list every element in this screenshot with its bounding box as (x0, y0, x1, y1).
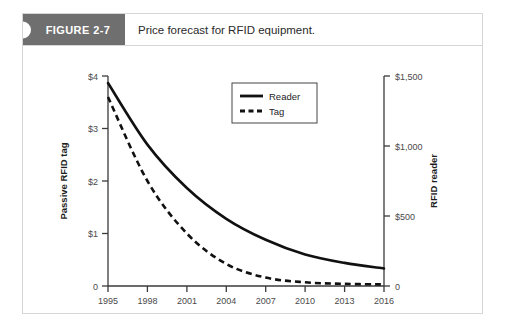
chart-legend: Reader Tag (232, 83, 317, 123)
x-tick-label-1998: 1998 (137, 296, 157, 306)
y-tick-label-3: $3 (88, 124, 98, 134)
y2-tick-label-500: $500 (395, 212, 415, 222)
y-tick-label-1: $1 (88, 229, 98, 239)
legend-box (232, 83, 317, 123)
x-tick-label-2004: 2004 (216, 296, 236, 306)
y2-tick-label-0: 0 (395, 282, 400, 292)
series-line-tag (108, 97, 384, 284)
y-tick-label-2: $2 (88, 177, 98, 187)
figure-number-tab: FIGURE 2-7 (23, 14, 125, 45)
x-tick-label-2013: 2013 (335, 296, 355, 306)
figure-card: FIGURE 2-7 Price forecast for RFID equip… (22, 13, 483, 314)
x-tick-label-2007: 2007 (256, 296, 276, 306)
x-tick-label-2001: 2001 (177, 296, 197, 306)
y-tick-label-0: 0 (93, 282, 98, 292)
tab-notch-decoration (23, 21, 31, 38)
figure-header: FIGURE 2-7 Price forecast for RFID equip… (23, 14, 482, 46)
y-axis-right-title: RFID reader (428, 154, 439, 208)
figure-number-label: FIGURE 2-7 (38, 24, 111, 36)
legend-label-tag: Tag (269, 106, 284, 117)
x-tick-label-2016: 2016 (374, 296, 394, 306)
y2-tick-label-1000: $1,000 (395, 142, 423, 152)
figure-caption: Price forecast for RFID equipment. (125, 14, 482, 45)
x-axis-ticks: 1995 1998 2001 2004 2007 2010 2013 2016 (98, 286, 394, 306)
y-axis-left-ticks: $4 $3 $2 $1 0 (88, 72, 108, 292)
legend-label-reader: Reader (269, 91, 300, 102)
y-axis-right-ticks: $1,500 $1,000 $500 0 (384, 72, 423, 292)
x-tick-label-1995: 1995 (98, 296, 118, 306)
y2-tick-label-1500: $1,500 (395, 72, 423, 82)
x-tick-label-2010: 2010 (295, 296, 315, 306)
y-tick-label-4: $4 (88, 72, 98, 82)
price-forecast-line-chart: $4 $3 $2 $1 0 $1,500 $1,000 $500 0 (23, 46, 482, 313)
y-axis-left-title: Passive RFID tag (58, 142, 69, 219)
chart-plot-area: $4 $3 $2 $1 0 $1,500 $1,000 $500 0 (23, 46, 482, 313)
